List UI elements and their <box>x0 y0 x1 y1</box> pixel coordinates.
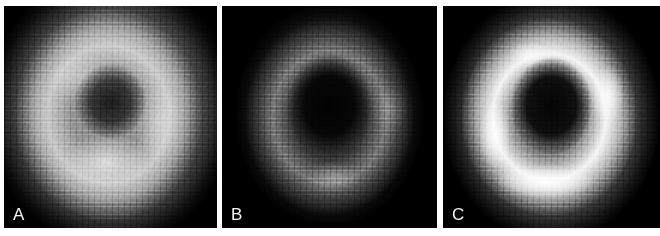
panel-label-c: C <box>452 206 465 223</box>
image-panel-b[interactable]: B <box>222 6 437 228</box>
image-panel-c[interactable]: C <box>443 6 660 228</box>
figure-panel-row: A B C <box>0 0 660 236</box>
tomographic-image-a <box>4 6 217 228</box>
panel-label-a: A <box>13 206 25 223</box>
image-cavity-layer-b <box>222 6 437 228</box>
tomographic-image-c <box>443 6 660 228</box>
panel-label-b: B <box>231 206 243 223</box>
tomographic-image-b <box>222 6 437 228</box>
image-cavity-layer-a <box>4 6 217 228</box>
image-panel-a[interactable]: A <box>4 6 217 228</box>
image-cavity-layer-c <box>443 6 660 228</box>
